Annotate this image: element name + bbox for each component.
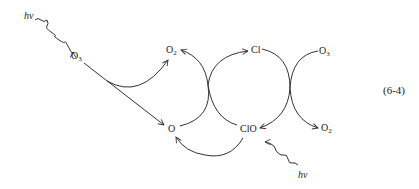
- photon-wave-top: [35, 19, 73, 54]
- clo-arc: [208, 85, 237, 125]
- clo-to-o-arrow: [176, 137, 243, 156]
- photon-label-top: hν: [24, 11, 33, 21]
- species-o-bottom: O: [168, 124, 175, 134]
- species-o2-right: O2: [321, 123, 332, 136]
- species-o3-right: O3: [319, 46, 330, 59]
- photon-label-bottom: hν: [298, 170, 307, 180]
- species-o3-left: O3: [71, 51, 82, 64]
- cycle-left-arc: [180, 50, 209, 126]
- cl-to-clo-arc: [260, 49, 290, 128]
- equation-number: (6-4): [383, 85, 405, 95]
- species-o2-top: O2: [166, 45, 177, 58]
- o3-to-o2-arrow: [107, 60, 168, 87]
- species-cl: Cl: [251, 45, 260, 55]
- o3-to-o-arrow: [84, 63, 164, 125]
- cycle-to-cl-arc: [208, 51, 248, 85]
- o3-to-o2-right-arc: [290, 51, 318, 128]
- reaction-cycle-arrows: [0, 0, 419, 189]
- species-clo: ClO: [240, 124, 257, 134]
- photon-wave-bottom: [265, 142, 298, 165]
